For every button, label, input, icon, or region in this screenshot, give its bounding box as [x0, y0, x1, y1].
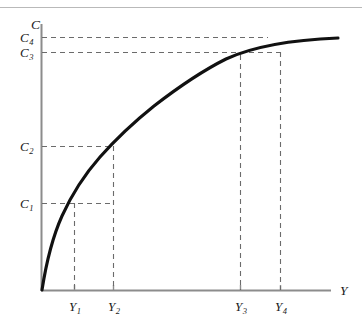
x-tick-y3-sub: 3 [243, 306, 247, 316]
y-tick-c4-sub: 4 [29, 37, 33, 47]
x-tick-label-y1: Y1 [69, 300, 80, 313]
y-tick-c1-base: C [20, 196, 29, 211]
horizontal-guide-lines [42, 38, 281, 204]
y-tick-label-c1: C1 [20, 197, 33, 210]
axis-group [41, 24, 331, 291]
x-axis-name: Y [340, 284, 348, 298]
y-tick-label-c2: C2 [20, 140, 33, 153]
x-tick-y4-sub: 4 [283, 306, 287, 316]
x-tick-y3-base: Y [235, 299, 242, 314]
x-tick-y1-sub: 1 [77, 306, 81, 316]
y-tick-label-c4: C4 [20, 31, 33, 44]
y-tick-c2-base: C [20, 139, 29, 154]
x-tick-label-y3: Y3 [235, 300, 246, 313]
y-tick-c3-base: C [20, 45, 29, 60]
x-tick-y4-base: Y [275, 299, 282, 314]
y-tick-label-c3: C3 [20, 46, 33, 59]
y-tick-c2-sub: 2 [29, 146, 33, 156]
consumption-curve [42, 38, 338, 290]
y-tick-c3-sub: 3 [29, 52, 33, 62]
y-tick-c1-sub: 1 [29, 203, 33, 213]
x-tick-y2-base: Y [108, 299, 115, 314]
x-tick-label-y2: Y2 [108, 300, 119, 313]
figure-consumption-function: C Y C4 C3 C2 C1 Y1 Y2 Y3 Y4 [0, 0, 362, 332]
x-tick-y2-sub: 2 [116, 306, 120, 316]
x-tick-label-y4: Y4 [275, 300, 286, 313]
plot-canvas [0, 0, 362, 332]
y-axis-name: C [31, 18, 40, 32]
y-tick-c4-base: C [20, 30, 29, 45]
x-tick-y1-base: Y [69, 299, 76, 314]
